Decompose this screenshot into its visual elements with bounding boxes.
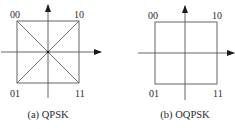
qpsk-origin-dot	[47, 51, 50, 54]
constellation-figure: 00 10 01 11 (a) QPSK 00 10 01 11 (b) OQP…	[0, 0, 235, 129]
oqpsk-label-00: 00	[148, 10, 158, 21]
qpsk-label-11: 11	[75, 88, 85, 99]
oqpsk-diagram: 00 10 01 11 (b) OQPSK	[138, 6, 234, 121]
qpsk-label-00: 00	[10, 9, 20, 20]
oqpsk-label-01: 01	[149, 88, 159, 99]
qpsk-diagram: 00 10 01 11 (a) QPSK	[1, 5, 101, 121]
oqpsk-label-10: 10	[212, 10, 222, 21]
qpsk-label-01: 01	[10, 88, 20, 99]
qpsk-label-10: 10	[74, 9, 84, 20]
oqpsk-label-11: 11	[213, 88, 223, 99]
qpsk-caption: (a) QPSK	[27, 109, 69, 121]
oqpsk-caption: (b) OQPSK	[160, 109, 210, 121]
